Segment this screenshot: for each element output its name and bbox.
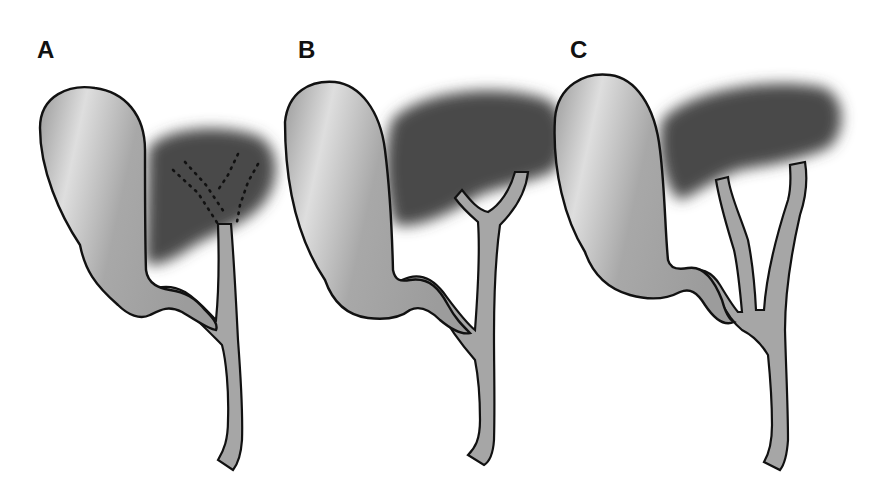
panel-c xyxy=(555,75,842,470)
biliary-anatomy-figure: A B C xyxy=(0,0,870,489)
liver-shape xyxy=(145,128,276,264)
liver-shape xyxy=(660,83,842,200)
diagram-canvas xyxy=(0,0,870,489)
bile-duct-tree xyxy=(686,162,806,470)
panel-a xyxy=(40,87,276,470)
panel-b xyxy=(285,82,565,465)
